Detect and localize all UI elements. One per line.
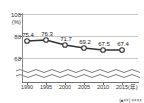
x-tick-label-2010: 2010 bbox=[97, 84, 109, 90]
line-chart: 100 (%) 80 60 75.4 76.3 71.7 69.2 67.5 6… bbox=[0, 0, 144, 103]
x-tick-label-1995: 1995 bbox=[40, 84, 52, 90]
data-point-1990 bbox=[25, 39, 30, 44]
x-tick-label-2000: 2000 bbox=[59, 84, 71, 90]
axis-break-symbol bbox=[16, 68, 140, 79]
point-label-2010: 67.5 bbox=[98, 41, 110, 47]
point-label-1995: 76.3 bbox=[41, 31, 53, 37]
x-tick-label-1990: 1990 bbox=[21, 84, 33, 90]
data-point-2000 bbox=[63, 43, 68, 48]
x-tick-label-2005: 2005 bbox=[78, 84, 90, 90]
data-point-1995 bbox=[44, 38, 49, 43]
point-label-2015: 67.4 bbox=[117, 41, 129, 47]
data-point-2015 bbox=[120, 48, 125, 53]
point-label-2000: 71.7 bbox=[60, 36, 72, 42]
point-label-2005: 69.2 bbox=[79, 39, 91, 45]
point-label-1990: 75.4 bbox=[22, 32, 34, 38]
source-note: (■××) ×××× bbox=[119, 98, 142, 103]
data-point-2005 bbox=[82, 46, 87, 51]
x-tick-label-2015: 2015 bbox=[116, 84, 128, 90]
data-point-2010 bbox=[101, 48, 106, 53]
x-axis-unit: (年) bbox=[128, 84, 138, 90]
